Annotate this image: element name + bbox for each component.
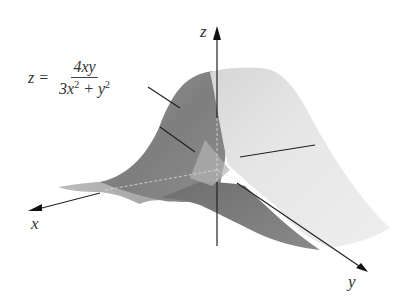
- equation-label: z = 4xy 3x2 + y2: [28, 58, 110, 98]
- z-axis-label: z: [200, 22, 207, 42]
- surface-plot-svg: [0, 0, 399, 299]
- x-axis-arrowhead: [28, 204, 42, 211]
- equation-numerator: 4xy: [71, 58, 97, 78]
- x-axis-label: x: [31, 214, 39, 234]
- equation-fraction: 4xy 3x2 + y2: [59, 58, 110, 98]
- y-axis-arrowhead: [356, 263, 368, 272]
- y-axis-label: y: [348, 272, 356, 292]
- denominator-exponent-y: 2: [105, 79, 110, 90]
- equation-lhs: z =: [28, 69, 49, 87]
- denominator-term-y: + y: [79, 80, 105, 97]
- z-axis-arrowhead: [213, 26, 221, 40]
- equation-denominator: 3x2 + y2: [59, 78, 110, 98]
- denominator-term-3x: 3x: [59, 80, 74, 97]
- surface-plot-figure: z = 4xy 3x2 + y2 z x y: [0, 0, 399, 299]
- x-axis: [38, 193, 100, 209]
